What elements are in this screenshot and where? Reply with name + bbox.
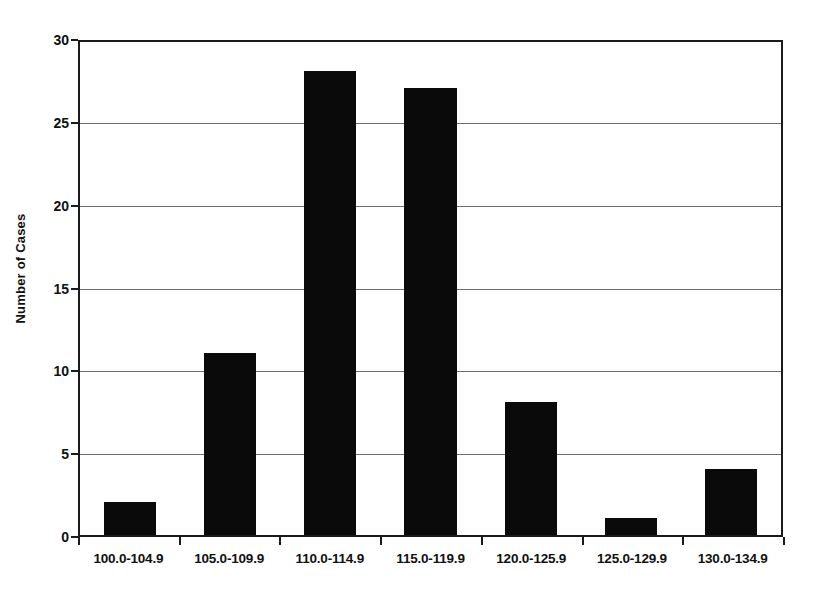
bar-slot [280, 42, 380, 535]
x-axis-labels: 100.0-104.9105.0-109.9110.0-114.9115.0-1… [78, 551, 783, 566]
x-axis-label: 110.0-114.9 [279, 551, 380, 566]
bar-slot [380, 42, 480, 535]
bar-slot [80, 42, 180, 535]
y-tick-mark [71, 205, 78, 207]
x-axis-label: 115.0-119.9 [380, 551, 481, 566]
x-tick-mark [481, 537, 483, 545]
y-tick-mark [71, 453, 78, 455]
plot-area [78, 40, 783, 537]
bar[interactable] [404, 88, 456, 535]
page-caption-sliver [0, 588, 813, 599]
y-tick-label: 5 [0, 446, 78, 462]
x-tick-mark [783, 537, 785, 545]
x-tick-mark [179, 537, 181, 545]
bar-slot [681, 42, 781, 535]
y-tick-mark [71, 536, 78, 538]
y-tick-label: 0 [0, 529, 78, 545]
x-axis-label: 130.0-134.9 [682, 551, 783, 566]
histogram-figure: Number of Cases 051015202530 100.0-104.9… [0, 0, 813, 599]
bars-layer [80, 42, 781, 535]
x-tick-mark [279, 537, 281, 545]
x-axis-label: 100.0-104.9 [78, 551, 179, 566]
bar[interactable] [505, 402, 557, 535]
y-tick-label: 10 [0, 363, 78, 379]
bar[interactable] [204, 353, 256, 535]
x-tick-mark [78, 537, 80, 545]
x-axis-label: 120.0-125.9 [481, 551, 582, 566]
bar-slot [581, 42, 681, 535]
x-axis-label: 125.0-129.9 [582, 551, 683, 566]
y-tick-mark [71, 122, 78, 124]
bar[interactable] [705, 469, 757, 535]
x-axis-label: 105.0-109.9 [179, 551, 280, 566]
y-tick-label: 15 [0, 281, 78, 297]
bar-slot [481, 42, 581, 535]
bar[interactable] [304, 71, 356, 535]
x-tick-mark [582, 537, 584, 545]
x-tick-mark [682, 537, 684, 545]
y-tick-mark [71, 288, 78, 290]
y-tick-label: 30 [0, 32, 78, 48]
bar-slot [180, 42, 280, 535]
x-tick-mark [380, 537, 382, 545]
y-tick-mark [71, 370, 78, 372]
bar[interactable] [605, 518, 657, 535]
y-tick-mark [71, 39, 78, 41]
bar[interactable] [104, 502, 156, 535]
y-tick-label: 20 [0, 198, 78, 214]
y-tick-label: 25 [0, 115, 78, 131]
